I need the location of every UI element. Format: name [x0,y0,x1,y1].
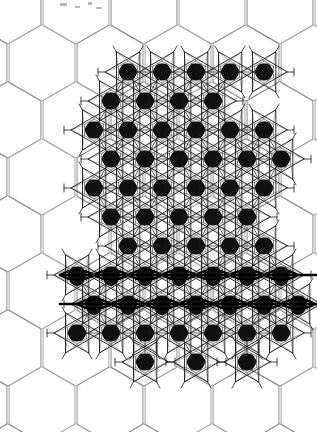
lattice-cluster-canvas [0,0,317,432]
figure-root [0,0,317,432]
